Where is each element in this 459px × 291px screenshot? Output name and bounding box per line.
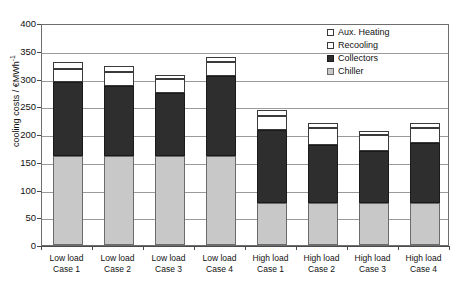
x-axis-category-label: High loadCase 4 [398,253,449,275]
recooling-swatch [327,42,334,49]
x-axis-tick [245,246,246,250]
bar-segment-collectors[interactable] [257,130,287,204]
bar-segment-aux-heating[interactable] [104,66,134,72]
bar-segment-recooling[interactable] [308,128,338,145]
bar-segment-collectors[interactable] [155,93,185,156]
x-axis-tick [347,246,348,250]
bar-group[interactable] [155,75,185,245]
x-axis-category-line: Case 3 [143,264,194,275]
bar-group[interactable] [257,110,287,245]
bar-segment-aux-heating[interactable] [410,123,440,128]
x-axis-tick [194,246,195,250]
bar-group[interactable] [359,131,389,245]
x-axis-category-line: Case 2 [296,264,347,275]
legend-item-label: Collectors [338,52,378,65]
bar-segment-recooling[interactable] [359,135,389,151]
bar-segment-aux-heating[interactable] [308,123,338,127]
x-axis-category-line: High load [347,253,398,264]
bar-segment-aux-heating[interactable] [359,131,389,135]
y-axis-tick-label: 0 [31,241,36,251]
bar-segment-aux-heating[interactable] [206,57,236,62]
y-axis-tick-label: 350 [20,47,36,57]
x-axis-tick [449,246,450,250]
legend-item[interactable]: Chiller [327,65,435,78]
legend-item-label: Aux. Heating [338,26,390,39]
bar-segment-recooling[interactable] [206,62,236,76]
chart-legend: Aux. HeatingRecoolingCollectorsChiller [327,26,435,78]
x-axis-category-line: Case 1 [41,264,92,275]
x-axis-category-line: Case 4 [194,264,245,275]
legend-item[interactable]: Aux. Heating [327,26,435,39]
bar-segment-aux-heating[interactable] [155,75,185,79]
x-axis-category-line: High load [296,253,347,264]
x-axis-tick [92,246,93,250]
bar-segment-recooling[interactable] [257,116,287,129]
legend-item-label: Chiller [338,65,364,78]
bar-segment-collectors[interactable] [104,86,134,155]
x-axis-category-line: Case 2 [92,264,143,275]
x-axis-category-label: High loadCase 2 [296,253,347,275]
x-axis-category-line: Case 3 [347,264,398,275]
bar-segment-chiller[interactable] [308,203,338,245]
bar-group[interactable] [104,66,134,245]
x-axis-category-label: High loadCase 3 [347,253,398,275]
bar-segment-collectors[interactable] [53,82,83,155]
bar-segment-chiller[interactable] [53,156,83,245]
x-axis-tick [143,246,144,250]
x-axis-category-label: High loadCase 1 [245,253,296,275]
x-axis-category-line: High load [398,253,449,264]
x-axis-category-label: Low loadCase 4 [194,253,245,275]
bar-segment-collectors[interactable] [359,151,389,203]
x-axis-tick [41,246,42,250]
bar-segment-chiller[interactable] [257,203,287,245]
bar-segment-recooling[interactable] [104,72,134,86]
y-axis-tick-label: 100 [20,186,36,196]
bar-segment-aux-heating[interactable] [53,62,83,69]
bar-segment-aux-heating[interactable] [257,110,287,116]
y-axis-tick-label: 50 [25,213,36,223]
x-axis-category-label: Low loadCase 3 [143,253,194,275]
aux-heating-swatch [327,29,334,36]
y-axis-tick-label: 400 [20,19,36,29]
x-axis-category-line: Case 1 [245,264,296,275]
x-axis-category-label: Low loadCase 1 [41,253,92,275]
x-axis-category-line: High load [245,253,296,264]
x-axis-category-line: Low load [41,253,92,264]
cooling-costs-stacked-bar-chart: cooling costs / €MWh-1 40035030025020015… [0,0,459,291]
x-axis-category-label: Low loadCase 2 [92,253,143,275]
x-axis-category-line: Low load [92,253,143,264]
bar-group[interactable] [53,62,83,245]
bar-segment-recooling[interactable] [53,69,83,83]
x-axis-tick [296,246,297,250]
bar-segment-chiller[interactable] [359,203,389,245]
bar-group[interactable] [410,123,440,245]
bar-group[interactable] [308,123,338,245]
bar-segment-chiller[interactable] [104,156,134,245]
y-axis-tick-label: 250 [20,102,36,112]
bar-segment-chiller[interactable] [206,156,236,245]
x-axis-category-line: Low load [143,253,194,264]
chiller-swatch [327,68,334,75]
bar-segment-recooling[interactable] [155,79,185,93]
x-axis-tick [398,246,399,250]
bar-segment-collectors[interactable] [410,143,440,203]
bar-group[interactable] [206,57,236,245]
bar-segment-recooling[interactable] [410,128,440,142]
bar-segment-collectors[interactable] [308,145,338,204]
collectors-swatch [327,55,334,62]
legend-item-label: Recooling [338,39,378,52]
legend-item[interactable]: Recooling [327,39,435,52]
bar-segment-chiller[interactable] [155,156,185,245]
bar-segment-collectors[interactable] [206,76,236,156]
y-axis-tick-label: 300 [20,75,36,85]
x-axis-category-line: Case 4 [398,264,449,275]
y-axis-tick-label: 150 [20,158,36,168]
y-axis-tick-label: 200 [20,130,36,140]
bar-segment-chiller[interactable] [410,203,440,245]
x-axis-category-line: Low load [194,253,245,264]
y-axis-title-exponent: -1 [9,55,16,61]
legend-item[interactable]: Collectors [327,52,435,65]
